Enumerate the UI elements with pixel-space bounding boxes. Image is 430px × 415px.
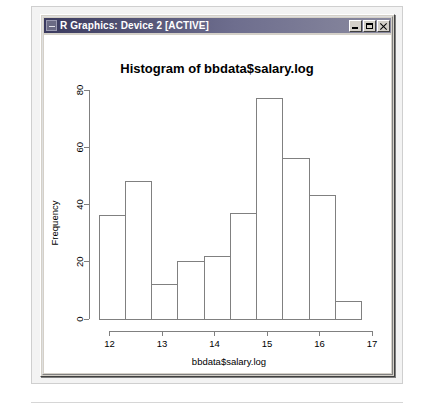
bottom-divider	[31, 402, 403, 403]
r-graphics-window[interactable]: R Graphics: Device 2 [ACTIVE] Histogram …	[40, 14, 395, 377]
histogram-bar	[230, 213, 256, 319]
histogram-bar	[178, 262, 204, 319]
window-controls	[349, 20, 390, 32]
y-axis-tick-label: 0	[74, 316, 85, 321]
y-axis-tick-label: 80	[74, 85, 85, 96]
window-title: R Graphics: Device 2 [ACTIVE]	[60, 19, 349, 32]
histogram-bars	[99, 99, 362, 319]
y-axis: 020406080	[74, 85, 89, 322]
x-axis-tick-label: 15	[262, 338, 273, 349]
histogram-bar	[257, 99, 283, 319]
y-axis-tick-label: 40	[74, 199, 85, 210]
x-axis-tick-label: 14	[209, 338, 220, 349]
histogram-plot: Histogram of bbdata$salary.log Frequency…	[44, 35, 391, 373]
histogram-bar	[204, 256, 230, 319]
histogram-bar	[125, 182, 151, 319]
x-axis-tick-label: 13	[157, 338, 168, 349]
y-axis-label: Frequency	[49, 200, 60, 245]
x-axis: 121314151617	[104, 331, 377, 349]
x-axis-tick-label: 12	[104, 338, 115, 349]
histogram-bar	[335, 302, 361, 319]
histogram-bar	[99, 216, 125, 319]
r-graphics-icon	[46, 20, 57, 31]
window-titlebar[interactable]: R Graphics: Device 2 [ACTIVE]	[44, 18, 391, 33]
close-button[interactable]	[377, 20, 390, 32]
x-axis-tick-label: 16	[314, 338, 325, 349]
maximize-button[interactable]	[363, 20, 376, 32]
chart-title: Histogram of bbdata$salary.log	[120, 61, 313, 76]
histogram-bar	[309, 196, 335, 319]
histogram-bar	[283, 159, 309, 319]
y-axis-tick-label: 60	[74, 142, 85, 153]
y-axis-tick-label: 20	[74, 256, 85, 267]
plot-canvas: Histogram of bbdata$salary.log Frequency…	[44, 35, 391, 373]
histogram-bar	[152, 285, 178, 319]
minimize-button[interactable]	[349, 20, 362, 32]
x-axis-label: bbdata$salary.log	[192, 356, 266, 367]
x-axis-tick-label: 17	[367, 338, 378, 349]
screenshot-root: R Graphics: Device 2 [ACTIVE] Histogram …	[0, 0, 430, 415]
